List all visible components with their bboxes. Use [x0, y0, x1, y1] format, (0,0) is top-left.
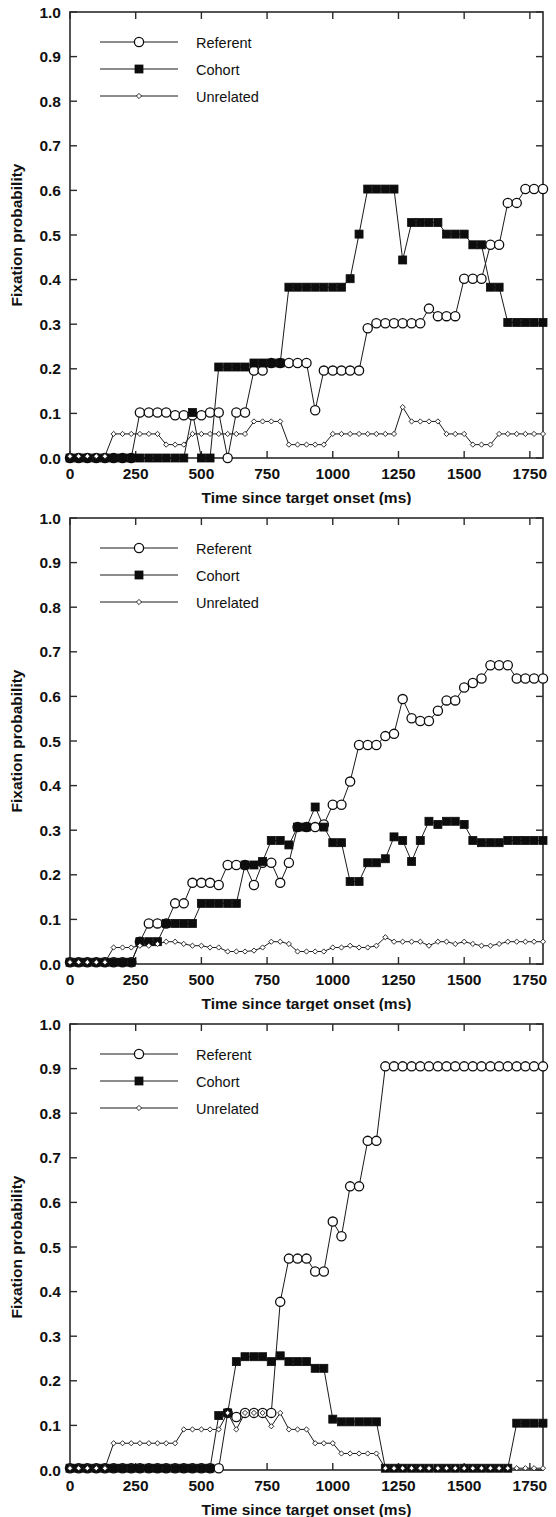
datapoint-unrelated [409, 939, 414, 944]
plot-frame [70, 12, 543, 458]
datapoint-referent [179, 411, 188, 420]
datapoint-cohort [425, 219, 433, 227]
x-tick-label: 750 [254, 971, 280, 988]
datapoint-unrelated [470, 941, 475, 946]
legend-marker-referent [134, 543, 143, 552]
datapoint-unrelated [479, 943, 484, 948]
datapoint-cohort [530, 1419, 538, 1427]
y-tick-label: 0.0 [39, 450, 61, 467]
datapoint-cohort [136, 1464, 144, 1472]
datapoint-cohort [285, 841, 293, 849]
datapoint-cohort [119, 958, 127, 966]
datapoint-referent [372, 319, 381, 328]
datapoint-referent [276, 1297, 285, 1306]
datapoint-unrelated [330, 945, 335, 950]
datapoint-referent [232, 1412, 241, 1421]
datapoint-referent [311, 1267, 320, 1276]
datapoint-referent [293, 358, 302, 367]
datapoint-cohort [267, 836, 275, 844]
datapoint-referent [424, 1062, 433, 1071]
y-tick-label: 0.6 [39, 1194, 61, 1211]
datapoint-referent [205, 408, 214, 417]
datapoint-unrelated [374, 1451, 379, 1456]
datapoint-cohort [521, 318, 529, 326]
datapoint-unrelated [181, 1427, 186, 1432]
datapoint-unrelated [190, 1427, 195, 1432]
datapoint-referent [337, 800, 346, 809]
datapoint-cohort [478, 241, 486, 249]
legend-label-referent: Referent [196, 1047, 252, 1063]
datapoint-cohort [530, 318, 538, 326]
x-tick-label: 1750 [513, 971, 547, 988]
datapoint-cohort [337, 283, 345, 291]
datapoint-referent [240, 408, 249, 417]
datapoint-unrelated [409, 419, 414, 424]
y-tick-label: 1.0 [39, 4, 61, 21]
datapoint-cohort [408, 857, 416, 865]
datapoint-referent [389, 729, 398, 738]
datapoint-unrelated [488, 943, 493, 948]
datapoint-unrelated [479, 442, 484, 447]
datapoint-referent [188, 878, 197, 887]
x-tick-label: 1000 [316, 1477, 350, 1494]
datapoint-unrelated [514, 939, 519, 944]
x-tick-label: 0 [66, 971, 75, 988]
datapoint-unrelated [155, 1441, 160, 1446]
datapoint-cohort [434, 219, 442, 227]
plot-frame [70, 518, 543, 964]
datapoint-cohort [521, 836, 529, 844]
datapoint-cohort [294, 1358, 302, 1366]
y-tick-label: 0.4 [39, 1283, 61, 1300]
datapoint-cohort [320, 823, 328, 831]
datapoint-cohort [399, 256, 407, 264]
datapoint-unrelated [304, 442, 309, 447]
datapoint-unrelated [418, 419, 423, 424]
datapoint-cohort [197, 454, 205, 462]
x-tick-label: 500 [188, 465, 214, 482]
datapoint-referent [460, 683, 469, 692]
y-axis-title: Fixation probability [8, 163, 25, 306]
datapoint-cohort [145, 454, 153, 462]
datapoint-cohort [372, 859, 380, 867]
datapoint-referent [460, 1062, 469, 1071]
datapoint-unrelated [269, 419, 274, 424]
datapoint-referent [529, 1062, 538, 1071]
datapoint-referent [354, 366, 363, 375]
datapoint-referent [442, 312, 451, 321]
datapoint-referent [451, 312, 460, 321]
datapoint-referent [293, 1254, 302, 1263]
datapoint-cohort [162, 919, 170, 927]
datapoint-referent [363, 1136, 372, 1145]
series-line-cohort [70, 1356, 543, 1468]
datapoint-unrelated [505, 431, 510, 436]
datapoint-cohort [267, 1358, 275, 1366]
datapoint-referent [372, 1136, 381, 1145]
datapoint-cohort [329, 1415, 337, 1423]
datapoint-cohort [180, 919, 188, 927]
datapoint-cohort [539, 1419, 547, 1427]
series-line-referent [70, 665, 543, 962]
datapoint-referent [284, 858, 293, 867]
datapoint-cohort [232, 363, 240, 371]
datapoint-unrelated [269, 1424, 274, 1429]
datapoint-referent [232, 860, 241, 869]
datapoint-referent [521, 184, 530, 193]
datapoint-cohort [355, 230, 363, 238]
legend-marker-unrelated [136, 1105, 141, 1110]
datapoint-cohort [197, 1464, 205, 1472]
datapoint-cohort [486, 283, 494, 291]
datapoint-cohort [136, 454, 144, 462]
x-tick-label: 500 [188, 1477, 214, 1494]
datapoint-unrelated [225, 949, 230, 954]
datapoint-cohort [408, 219, 416, 227]
datapoint-cohort [215, 899, 223, 907]
datapoint-cohort [530, 836, 538, 844]
datapoint-referent [503, 198, 512, 207]
x-tick-label: 750 [254, 465, 280, 482]
datapoint-cohort [513, 318, 521, 326]
datapoint-cohort [390, 185, 398, 193]
datapoint-referent [311, 406, 320, 415]
x-tick-label: 1500 [447, 1477, 481, 1494]
datapoint-cohort [364, 185, 372, 193]
datapoint-referent [179, 899, 188, 908]
